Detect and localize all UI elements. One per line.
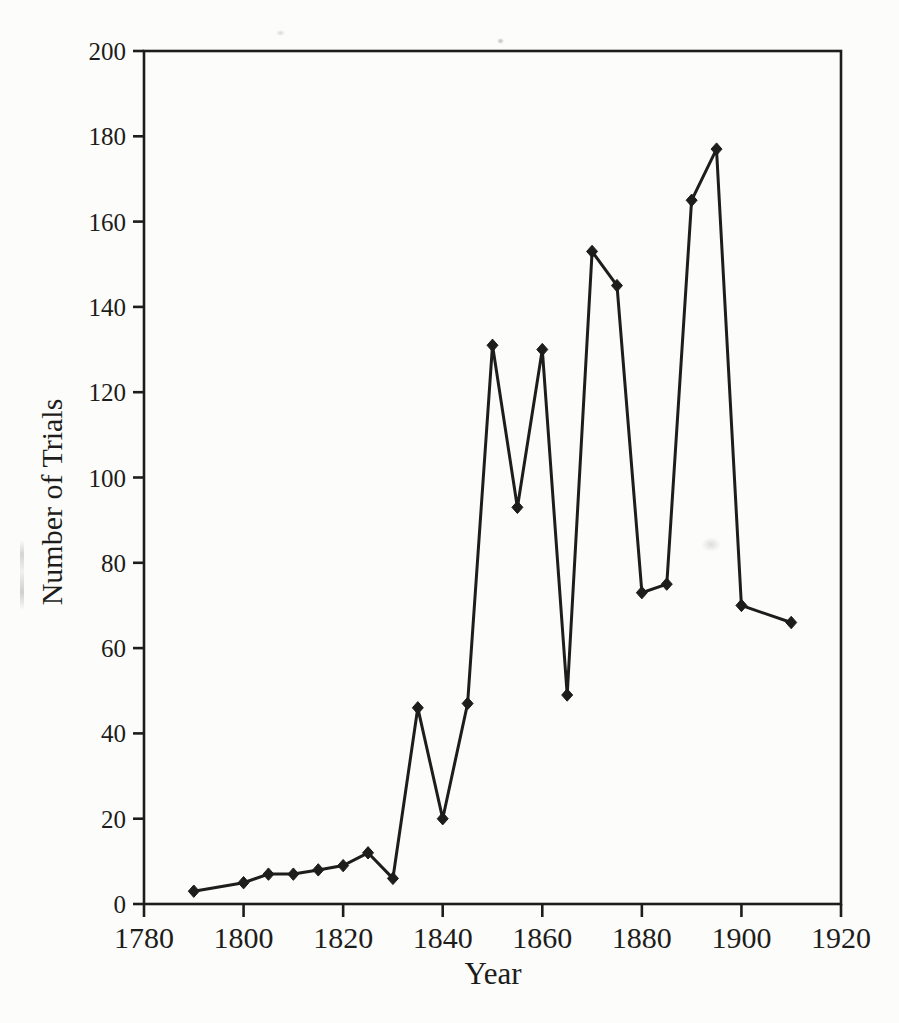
data-point-marker [487,339,498,351]
data-point-marker [711,143,722,155]
x-tick-label: 1880 [612,921,672,954]
data-point-marker [636,586,647,598]
y-tick-label: 160 [89,209,127,236]
data-line [194,149,791,891]
data-point-marker [562,689,573,701]
y-tick-label: 120 [89,379,127,406]
data-point-marker [686,194,697,206]
plot-frame [144,51,841,904]
y-tick-label: 40 [101,720,126,747]
y-axis-title: Number of Trials [36,352,68,652]
data-point-marker [238,876,249,888]
data-point-marker [288,868,299,880]
x-axis-title: Year [343,958,643,990]
x-tick-label: 1900 [711,921,771,954]
y-tick-label: 140 [89,294,127,321]
data-point-marker [263,868,274,880]
y-tick-label: 100 [89,465,127,492]
data-point-marker [412,702,423,714]
data-point-marker [786,616,797,628]
data-point-marker [313,864,324,876]
y-tick-label: 60 [101,635,126,662]
x-tick-label: 1800 [214,921,274,954]
data-point-marker [338,859,349,871]
x-tick-label: 1820 [313,921,373,954]
y-tick-label: 80 [101,550,126,577]
x-tick-label: 1780 [114,921,174,954]
x-tick-label: 1840 [413,921,473,954]
y-tick-label: 180 [89,123,127,150]
scanned-chart-page: 0204060801001201401601802001780180018201… [0,0,899,1023]
data-point-marker [661,578,672,590]
y-tick-label: 200 [89,38,127,65]
chart-canvas: 0204060801001201401601802001780180018201… [0,0,899,1023]
data-point-marker [462,697,473,709]
data-point-marker [437,813,448,825]
data-point-marker [736,599,747,611]
y-tick-label: 0 [114,891,127,918]
x-tick-label: 1920 [811,921,871,954]
x-tick-label: 1860 [512,921,572,954]
data-point-marker [188,885,199,897]
data-point-marker [537,343,548,355]
data-point-marker [512,501,523,513]
y-tick-label: 20 [101,806,126,833]
